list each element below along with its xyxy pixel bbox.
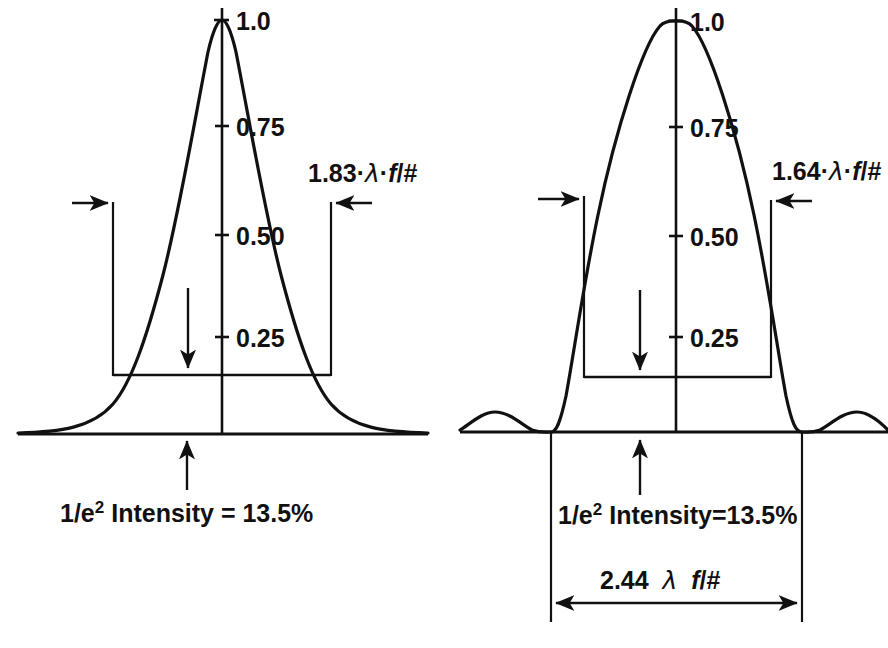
gaussian-intensity-caption: 1/e2 Intensity = 13.5% [60, 498, 313, 528]
gaussian-label-0.50: 0.50 [236, 222, 285, 250]
figure-root: 1.0 0.75 0.50 0.25 1.83·λ·f/# 1/e2 Inten… [0, 0, 888, 648]
gaussian-label-0.75: 0.75 [236, 113, 285, 141]
airy-label-1.0: 1.0 [690, 8, 725, 36]
airy-label-0.25: 0.25 [690, 324, 739, 352]
airy-curve [460, 21, 888, 432]
panel-airy: 1.0 0.75 0.50 0.25 1.64·λ·f/# 1/e2 Inten… [460, 8, 888, 622]
airy-intensity-caption: 1/e2 Intensity=13.5% [558, 500, 797, 530]
airy-label-0.50: 0.50 [690, 223, 739, 251]
gaussian-label-1.0: 1.0 [236, 7, 271, 35]
airy-width-label: 1.64·λ·f/# [772, 157, 881, 186]
airy-label-0.75: 0.75 [690, 114, 739, 142]
optics-figure-svg: 1.0 0.75 0.50 0.25 1.83·λ·f/# 1/e2 Inten… [0, 0, 888, 648]
gaussian-width-label: 1.83·λ·f/# [308, 159, 417, 188]
panel-gaussian: 1.0 0.75 0.50 0.25 1.83·λ·f/# 1/e2 Inten… [18, 7, 428, 527]
gaussian-label-0.25: 0.25 [236, 324, 285, 352]
airy-diameter-label: 2.44 λ f/# [600, 566, 721, 595]
